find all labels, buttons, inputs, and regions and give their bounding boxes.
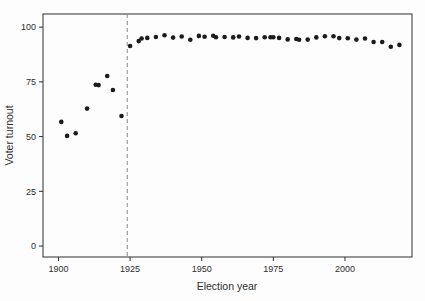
data-point	[380, 40, 385, 45]
y-tick-label: 0	[31, 241, 36, 251]
data-point	[111, 88, 116, 93]
data-point	[73, 131, 78, 136]
data-point	[331, 34, 336, 39]
data-point	[389, 45, 394, 50]
data-point	[171, 35, 176, 40]
data-point	[96, 83, 101, 88]
plot-border	[43, 14, 412, 257]
data-point	[397, 43, 402, 48]
data-point	[371, 40, 376, 45]
plot-frame	[43, 14, 412, 257]
data-point	[59, 120, 64, 125]
data-point	[197, 34, 202, 39]
data-point	[222, 35, 227, 40]
x-tick-label: 1900	[48, 264, 68, 274]
data-point	[346, 36, 351, 41]
data-point	[65, 134, 70, 139]
data-point	[139, 36, 144, 41]
data-point	[162, 33, 167, 38]
data-point	[237, 34, 242, 39]
y-tick-label: 25	[26, 187, 36, 197]
scatter-plot: 190019251950197520000255075100 Election …	[0, 0, 425, 301]
data-point	[271, 35, 276, 40]
data-point	[105, 74, 110, 79]
data-point	[277, 36, 282, 41]
data-point	[179, 34, 184, 39]
data-point	[323, 34, 328, 39]
y-tick-label: 50	[26, 132, 36, 142]
data-point	[85, 106, 90, 111]
data-point	[285, 37, 290, 42]
data-point	[202, 35, 207, 40]
data-point	[119, 114, 124, 119]
data-point	[231, 35, 236, 40]
data-point	[214, 35, 219, 40]
x-tick-label: 1975	[263, 264, 283, 274]
data-point	[254, 36, 259, 41]
data-point	[262, 35, 267, 40]
y-tick-label: 75	[26, 77, 36, 87]
data-point	[354, 37, 359, 42]
data-points	[59, 33, 402, 138]
y-axis-title: Voter turnout	[3, 105, 15, 165]
data-point	[363, 36, 368, 41]
data-point	[314, 35, 319, 40]
axis-ticks: 190019251950197520000255075100	[21, 22, 355, 274]
data-point	[188, 38, 193, 43]
x-tick-label: 1925	[120, 264, 140, 274]
data-point	[245, 36, 250, 41]
data-point	[128, 44, 133, 49]
x-tick-label: 1950	[192, 264, 212, 274]
data-point	[297, 38, 302, 43]
y-tick-label: 100	[21, 22, 36, 32]
x-axis-title: Election year	[197, 280, 258, 292]
voter-turnout-figure: 190019251950197520000255075100 Election …	[0, 0, 425, 301]
x-tick-label: 2000	[335, 264, 355, 274]
data-point	[337, 36, 342, 41]
data-point	[154, 35, 159, 40]
data-point	[145, 36, 150, 41]
data-point	[305, 37, 310, 42]
